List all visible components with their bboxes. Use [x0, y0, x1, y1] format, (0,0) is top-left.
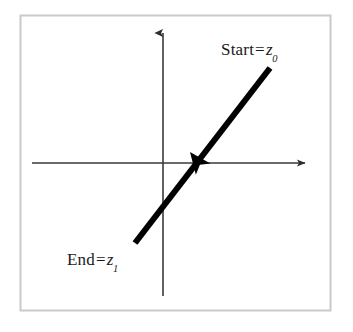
end-label-subscript: 1 — [113, 263, 118, 274]
start-label-equals: = — [254, 40, 266, 59]
vector-diagram-figure: Start=z0 End=z1 — [0, 0, 353, 332]
start-label-prefix: Start — [221, 40, 254, 59]
start-label-subscript: 0 — [272, 53, 277, 64]
end-label-equals: = — [95, 250, 107, 269]
end-label: End=z1 — [67, 251, 119, 272]
diagram-canvas — [0, 0, 353, 332]
vector-line — [135, 68, 270, 243]
end-label-prefix: End — [67, 250, 95, 269]
start-label: Start=z0 — [221, 41, 278, 62]
